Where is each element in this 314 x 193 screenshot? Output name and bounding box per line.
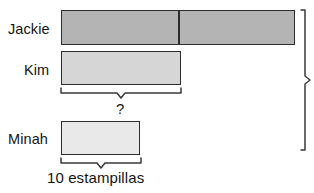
brace-minah	[59, 157, 143, 169]
bar-kim	[61, 51, 181, 85]
bar-minah	[61, 121, 140, 155]
brace-kim-label: ?	[116, 101, 124, 116]
bar-jackie-segment-divider	[178, 10, 180, 45]
row-label-jackie: Jackie	[8, 22, 50, 37]
brace-kim	[59, 87, 183, 99]
bracket-total	[300, 8, 313, 152]
tape-diagram: Jackie Kim ? Minah 10 estampillas	[0, 0, 314, 193]
row-label-minah: Minah	[8, 132, 48, 147]
row-label-kim: Kim	[24, 63, 49, 78]
brace-minah-label: 10 estampillas	[47, 170, 144, 185]
